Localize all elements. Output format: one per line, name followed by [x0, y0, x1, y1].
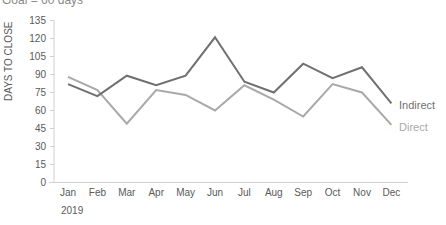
x-tick-label: Aug [265, 187, 283, 198]
y-tick-label: 60 [35, 105, 47, 116]
x-tick-label: Jan [60, 187, 76, 198]
x-tick-label: Feb [89, 187, 107, 198]
y-tick-label: 105 [29, 51, 46, 62]
series-line-indirect [68, 37, 391, 103]
line-chart: 0153045607590105120135JanFebMarAprMayJun… [0, 0, 446, 225]
series-line-direct [68, 77, 391, 125]
y-tick-label: 120 [29, 33, 46, 44]
x-year-label: 2019 [61, 205, 84, 216]
x-tick-label: May [176, 187, 195, 198]
series-label-direct: Direct [399, 121, 428, 133]
x-tick-label: Mar [118, 187, 136, 198]
y-tick-label: 90 [35, 69, 47, 80]
y-tick-label: 30 [35, 141, 47, 152]
x-tick-label: Jul [238, 187, 251, 198]
x-tick-label: Sep [294, 187, 312, 198]
y-tick-label: 75 [35, 87, 47, 98]
y-tick-label: 0 [40, 177, 46, 188]
x-tick-label: Nov [353, 187, 371, 198]
series-label-indirect: Indirect [399, 99, 435, 111]
x-tick-label: Jun [207, 187, 223, 198]
x-tick-label: Dec [383, 187, 401, 198]
y-tick-label: 45 [35, 123, 47, 134]
x-tick-label: Oct [325, 187, 341, 198]
y-tick-label: 135 [29, 15, 46, 26]
x-tick-label: Apr [148, 187, 164, 198]
y-tick-label: 15 [35, 159, 47, 170]
